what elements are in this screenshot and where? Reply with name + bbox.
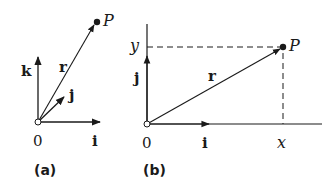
- point-p-label: P: [102, 11, 114, 30]
- panel-b-caption: (b): [143, 162, 166, 178]
- vector-diagram: P r k j 0 i (a) P y j r 0 i x (b): [0, 0, 332, 180]
- k-label: k: [21, 62, 32, 80]
- i-label: i: [92, 132, 98, 150]
- panel-a-caption: (a): [34, 162, 56, 178]
- origin-marker: [35, 119, 41, 125]
- panel-a: P r k j 0 i (a): [21, 11, 114, 178]
- point-p: [280, 44, 286, 50]
- y-label: y: [129, 36, 140, 55]
- point-p: [94, 19, 100, 25]
- panel-b: P y j r 0 i x (b): [129, 24, 322, 178]
- j-label: j: [132, 69, 139, 87]
- r-vector: [147, 49, 280, 124]
- point-p-label: P: [288, 36, 300, 55]
- i-label: i: [202, 134, 208, 152]
- origin-label: 0: [33, 132, 43, 150]
- origin-marker: [144, 121, 150, 127]
- j-label: j: [67, 86, 74, 104]
- x-label: x: [277, 133, 286, 152]
- origin-label: 0: [142, 134, 152, 152]
- r-label: r: [208, 67, 217, 85]
- j-vector: [38, 97, 64, 122]
- r-label: r: [59, 58, 68, 76]
